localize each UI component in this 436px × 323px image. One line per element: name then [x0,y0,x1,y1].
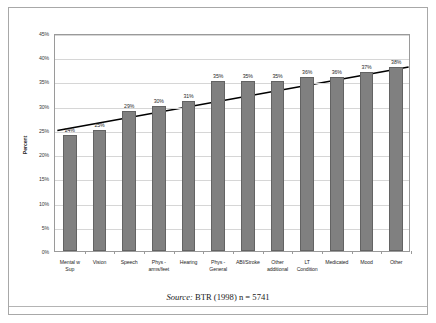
bar-value-label: 29% [117,104,141,109]
bar-value-label: 24% [58,128,82,133]
x-axis-tick [411,251,412,254]
source-caption: Source: BTR (1998) n = 5741 [0,292,436,302]
bar [360,72,374,251]
y-axis-tick-label: 25% [19,129,49,134]
x-axis-category-label: LTCondition [292,259,322,273]
x-axis-tick [174,251,175,254]
chart-area: Percent 0%5%10%15%20%25%30%35%40%45%24%M… [18,20,418,270]
gridline [55,59,409,60]
x-axis-tick [203,251,204,254]
y-axis-tick-label: 45% [19,32,49,37]
bar [122,111,136,251]
x-axis-category-label: Hearing [174,259,204,266]
x-axis-category-label: Other [381,259,411,266]
x-axis-category-label: Mood [352,259,382,266]
x-axis-category-label: Mental wSup [55,259,85,273]
x-axis-category-label: Speech [114,259,144,266]
gridline [55,35,409,36]
figure-container: Percent 0%5%10%15%20%25%30%35%40%45%24%M… [0,0,436,323]
bar-value-label: 35% [236,74,260,79]
gridline [55,205,409,206]
x-axis-category-label: Otheradditional [263,259,293,273]
gridline [55,108,409,109]
x-axis-tick [381,251,382,254]
bar-value-label: 38% [384,60,408,65]
bar-value-label: 37% [355,65,379,70]
x-axis-category-label: ABI/Stroke [233,259,263,266]
bar-value-label: 25% [88,123,112,128]
bar [300,77,314,251]
source-caption-text: BTR (1998) n = 5741 [193,292,270,302]
gridline [55,180,409,181]
bar-value-label: 36% [295,70,319,75]
x-axis-tick [263,251,264,254]
bar [330,77,344,251]
y-axis-tick-label: 20% [19,154,49,159]
y-axis-tick-label: 15% [19,178,49,183]
bar [182,101,196,251]
caption-divider [9,306,427,307]
source-caption-label: Source: [166,292,192,302]
gridline [55,156,409,157]
gridline [55,229,409,230]
bar [93,130,107,251]
y-axis-tick-label: 5% [19,226,49,231]
x-axis-category-label: Medicated [322,259,352,266]
x-axis-tick [114,251,115,254]
x-axis-tick [292,251,293,254]
x-axis-category-label: Phys -General [203,259,233,273]
y-axis-title: Percent [22,136,28,154]
bar-value-label: 31% [177,94,201,99]
y-axis-tick-label: 0% [19,250,49,255]
bar-value-label: 30% [147,99,171,104]
bar [152,106,166,251]
bar-value-label: 35% [206,74,230,79]
x-axis-category-label: Vision [85,259,115,266]
gridline [55,83,409,84]
x-axis-category-label: Phys -arms/feet [144,259,174,273]
y-axis-tick-label: 10% [19,202,49,207]
y-axis-tick-label: 35% [19,81,49,86]
y-axis-tick-label: 30% [19,105,49,110]
bar [271,81,285,251]
bar-value-label: 36% [325,70,349,75]
bar [241,81,255,251]
plot-frame: 0%5%10%15%20%25%30%35%40%45%24%Mental wS… [54,34,410,252]
x-axis-tick [352,251,353,254]
bar [63,135,77,251]
x-axis-tick [233,251,234,254]
bar [211,81,225,251]
bar-value-label: 35% [266,74,290,79]
gridline [55,132,409,133]
y-axis-tick-label: 40% [19,57,49,62]
bar [389,67,403,251]
x-axis-tick [85,251,86,254]
x-axis-tick [322,251,323,254]
x-axis-tick [144,251,145,254]
